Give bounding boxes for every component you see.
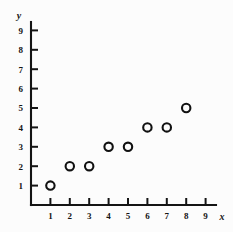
y-axis-ticks: 123456789 bbox=[19, 26, 39, 191]
data-points-group bbox=[46, 104, 190, 190]
x-axis-label: x bbox=[219, 211, 225, 222]
x-axis-ticks: 123456789 bbox=[48, 198, 208, 221]
data-point-marker bbox=[182, 104, 190, 112]
y-tick-label: 4 bbox=[19, 123, 24, 133]
y-tick-label: 1 bbox=[19, 181, 24, 191]
data-point-marker bbox=[163, 123, 171, 131]
y-tick-label: 3 bbox=[19, 142, 24, 152]
y-axis-label: y bbox=[16, 10, 22, 21]
x-tick-label: 8 bbox=[184, 211, 189, 221]
axes-group bbox=[31, 22, 216, 205]
y-tick-label: 8 bbox=[19, 45, 24, 55]
x-tick-label: 5 bbox=[126, 211, 131, 221]
x-tick-label: 1 bbox=[48, 211, 53, 221]
data-point-marker bbox=[66, 162, 74, 170]
y-tick-label: 9 bbox=[19, 26, 24, 36]
data-point-marker bbox=[104, 143, 112, 151]
x-tick-label: 2 bbox=[68, 211, 73, 221]
x-tick-label: 7 bbox=[165, 211, 170, 221]
plot-canvas: 123456789 123456789 y x bbox=[0, 0, 233, 232]
data-point-marker bbox=[85, 162, 93, 170]
y-tick-label: 7 bbox=[19, 65, 24, 75]
data-point-marker bbox=[143, 123, 151, 131]
y-tick-label: 6 bbox=[19, 84, 24, 94]
x-tick-label: 9 bbox=[203, 211, 208, 221]
x-tick-label: 4 bbox=[106, 211, 111, 221]
y-tick-label: 2 bbox=[19, 162, 24, 172]
data-point-marker bbox=[124, 143, 132, 151]
x-tick-label: 6 bbox=[145, 211, 150, 221]
x-tick-label: 3 bbox=[87, 211, 92, 221]
data-point-marker bbox=[46, 181, 54, 189]
y-tick-label: 5 bbox=[19, 103, 24, 113]
scatter-plot-figure: 123456789 123456789 y x bbox=[0, 0, 233, 232]
